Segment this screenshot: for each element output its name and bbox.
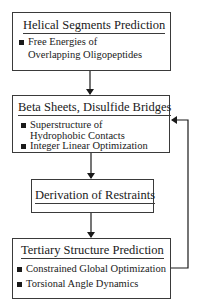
feedback-arrow-tertiary-to-beta (171, 120, 188, 268)
box-title: Derivation of Restraints (35, 188, 155, 204)
bullet-icon (17, 267, 22, 272)
box-tertiary-structure: Tertiary Structure Prediction Constraine… (12, 238, 171, 299)
bullet-icon (21, 123, 26, 128)
box-beta-sheets: Beta Sheets, Disulfide Bridges Superstru… (12, 95, 170, 153)
bullet-icon (21, 144, 26, 149)
bullet-icon (19, 40, 24, 45)
box-helical-segments: Helical Segments Prediction Free Energie… (12, 12, 171, 71)
list-item: Integer Linear Optimization (30, 140, 148, 152)
box-title: Beta Sheets, Disulfide Bridges (18, 100, 171, 116)
list-item: Torsional Angle Dynamics (26, 278, 138, 290)
list-item: Constrained Global Optimization (26, 263, 166, 275)
box-derivation-of-restraints: Derivation of Restraints (31, 179, 154, 213)
list-item-continuation: Overlapping Oligopeptides (28, 49, 142, 61)
list-item: Free Energies of (28, 36, 97, 48)
bullet-icon (17, 282, 22, 287)
box-title: Tertiary Structure Prediction (21, 243, 164, 259)
box-title: Helical Segments Prediction (23, 18, 165, 34)
